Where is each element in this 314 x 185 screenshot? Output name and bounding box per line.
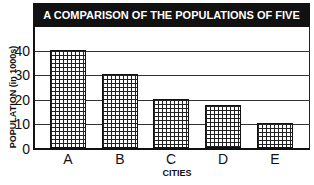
x-tick-c: C xyxy=(156,151,186,167)
bar-b xyxy=(102,74,138,148)
x-axis-label: CITIES xyxy=(0,168,314,178)
bar-c xyxy=(153,99,189,148)
bar-e xyxy=(257,123,293,148)
bar-d xyxy=(205,105,241,148)
y-axis-label: POPULATION (in 1000s) xyxy=(8,42,18,152)
x-tick-b: B xyxy=(105,151,135,167)
x-tick-d: D xyxy=(208,151,238,167)
x-tick-a: A xyxy=(53,151,83,167)
bar-a xyxy=(50,50,86,148)
x-tick-e: E xyxy=(260,151,290,167)
chart-title: A COMPARISON OF THE POPULATIONS OF FIVE … xyxy=(33,3,310,27)
x-axis xyxy=(33,148,310,150)
y-axis xyxy=(33,27,35,150)
